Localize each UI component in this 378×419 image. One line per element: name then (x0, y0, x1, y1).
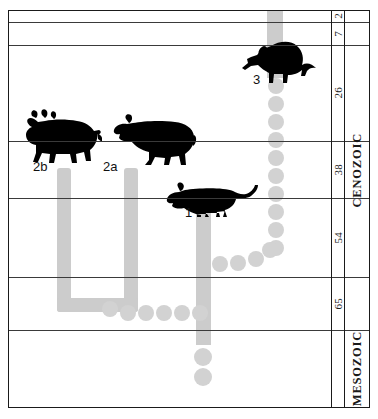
age-label-65: 65 (332, 298, 344, 310)
age-label-38: 38 (332, 164, 344, 176)
age-cell-54: 54 (331, 198, 344, 277)
era-label-cenozoic: CENOZOIC (350, 133, 365, 207)
age-label-26: 26 (332, 87, 344, 99)
age-cell-2: 2 (331, 10, 344, 22)
age-cell-26: 26 (331, 45, 344, 141)
age-cell-38: 38 (331, 141, 344, 198)
age-label-54: 54 (332, 232, 344, 244)
age-label-2: 2 (332, 13, 344, 19)
figure-frame (8, 10, 370, 408)
era-cell-mesozoic: MESOZOIC (344, 330, 370, 408)
age-label-7: 7 (332, 31, 344, 37)
era-cell-cenozoic: CENOZOIC (344, 10, 370, 330)
era-label-mesozoic: MESOZOIC (350, 331, 365, 406)
age-cell-7: 7 (331, 22, 344, 45)
age-cell-65: 65 (331, 277, 344, 330)
stratigraphic-range-figure: 2b 2a 1 3 2 7 26 38 54 65 CENOZOIC MESOZ… (0, 0, 378, 419)
